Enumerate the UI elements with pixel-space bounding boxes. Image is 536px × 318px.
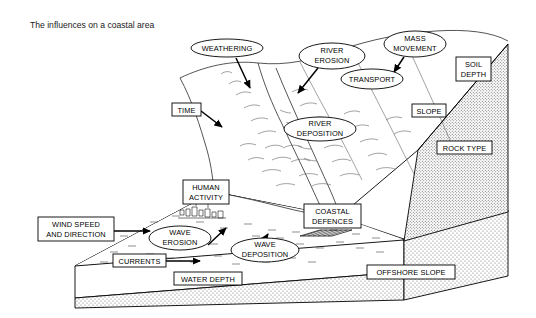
label-water-depth-text: WATER DEPTH: [181, 275, 235, 284]
label-offshore-slope-text: OFFSHORE SLOPE: [376, 268, 445, 277]
label-river-erosion[interactable]: RIVER EROSION: [299, 43, 365, 69]
label-mass-movement-line1: MASS: [404, 34, 425, 43]
page-title: The influences on a coastal area: [30, 20, 154, 30]
gully-line-2: [352, 50, 414, 174]
label-soil-depth[interactable]: SOIL DEPTH: [456, 57, 491, 81]
label-transport-text: TRANSPORT: [349, 75, 396, 84]
label-weathering[interactable]: WEATHERING: [191, 39, 263, 57]
label-soil-depth-line1: SOIL: [465, 60, 482, 69]
label-wind-speed-line1: WIND SPEED: [52, 220, 100, 229]
coastal-influences-block-diagram: The influences on a coastal area: [0, 0, 536, 318]
label-time[interactable]: TIME: [172, 103, 201, 116]
arrow-river-erosion: [298, 68, 318, 93]
label-river-deposition-line1: RIVER: [308, 119, 331, 128]
label-time-text: TIME: [177, 106, 195, 115]
label-rock-type-text: ROCK TYPE: [443, 144, 486, 153]
label-currents-text: CURRENTS: [119, 257, 161, 266]
label-human-activity-line1: HUMAN: [192, 183, 220, 192]
label-human-activity[interactable]: HUMAN ACTIVITY: [183, 180, 229, 204]
label-coastal-defences[interactable]: COASTAL DEFENCES: [304, 204, 361, 228]
label-transport[interactable]: TRANSPORT: [341, 69, 403, 89]
river-valley-east-bank: [276, 68, 341, 217]
label-wave-erosion-line2: EROSION: [163, 238, 198, 247]
label-coastal-defences-line1: COASTAL: [315, 207, 350, 216]
label-wave-deposition-line1: WAVE: [254, 240, 275, 249]
label-wind-speed-and-direction[interactable]: WIND SPEED AND DIRECTION: [38, 217, 114, 241]
label-wave-deposition-line2: DEPOSITION: [242, 250, 289, 259]
label-water-depth[interactable]: WATER DEPTH: [174, 272, 242, 285]
label-rock-type[interactable]: ROCK TYPE: [437, 141, 492, 154]
label-coastal-defences-line2: DEFENCES: [312, 217, 353, 226]
label-mass-movement[interactable]: MASS MOVEMENT: [384, 31, 446, 57]
hill-left-flank: [180, 78, 214, 192]
label-wave-deposition[interactable]: WAVE DEPOSITION: [231, 238, 299, 262]
label-river-deposition-line2: DEPOSITION: [297, 129, 344, 138]
label-wave-erosion[interactable]: WAVE EROSION: [149, 226, 211, 250]
label-mass-movement-line2: MOVEMENT: [393, 44, 437, 53]
label-river-erosion-line1: RIVER: [320, 46, 343, 55]
label-river-deposition[interactable]: RIVER DEPOSITION: [284, 117, 356, 141]
label-human-activity-line2: ACTIVITY: [189, 193, 223, 202]
label-currents[interactable]: CURRENTS: [113, 254, 166, 267]
label-weathering-text: WEATHERING: [202, 44, 253, 53]
label-slope[interactable]: SLOPE: [412, 104, 446, 117]
label-wave-erosion-line1: WAVE: [169, 228, 190, 237]
diagram-canvas: The influences on a coastal area: [0, 0, 536, 318]
label-wind-speed-line2: AND DIRECTION: [46, 230, 106, 239]
label-soil-depth-line2: DEPTH: [461, 70, 487, 79]
label-slope-text: SLOPE: [416, 107, 441, 116]
label-river-erosion-line2: EROSION: [315, 56, 350, 65]
arrow-time: [201, 111, 222, 127]
label-offshore-slope[interactable]: OFFSHORE SLOPE: [367, 265, 455, 279]
arrow-mass-movement: [394, 57, 404, 72]
